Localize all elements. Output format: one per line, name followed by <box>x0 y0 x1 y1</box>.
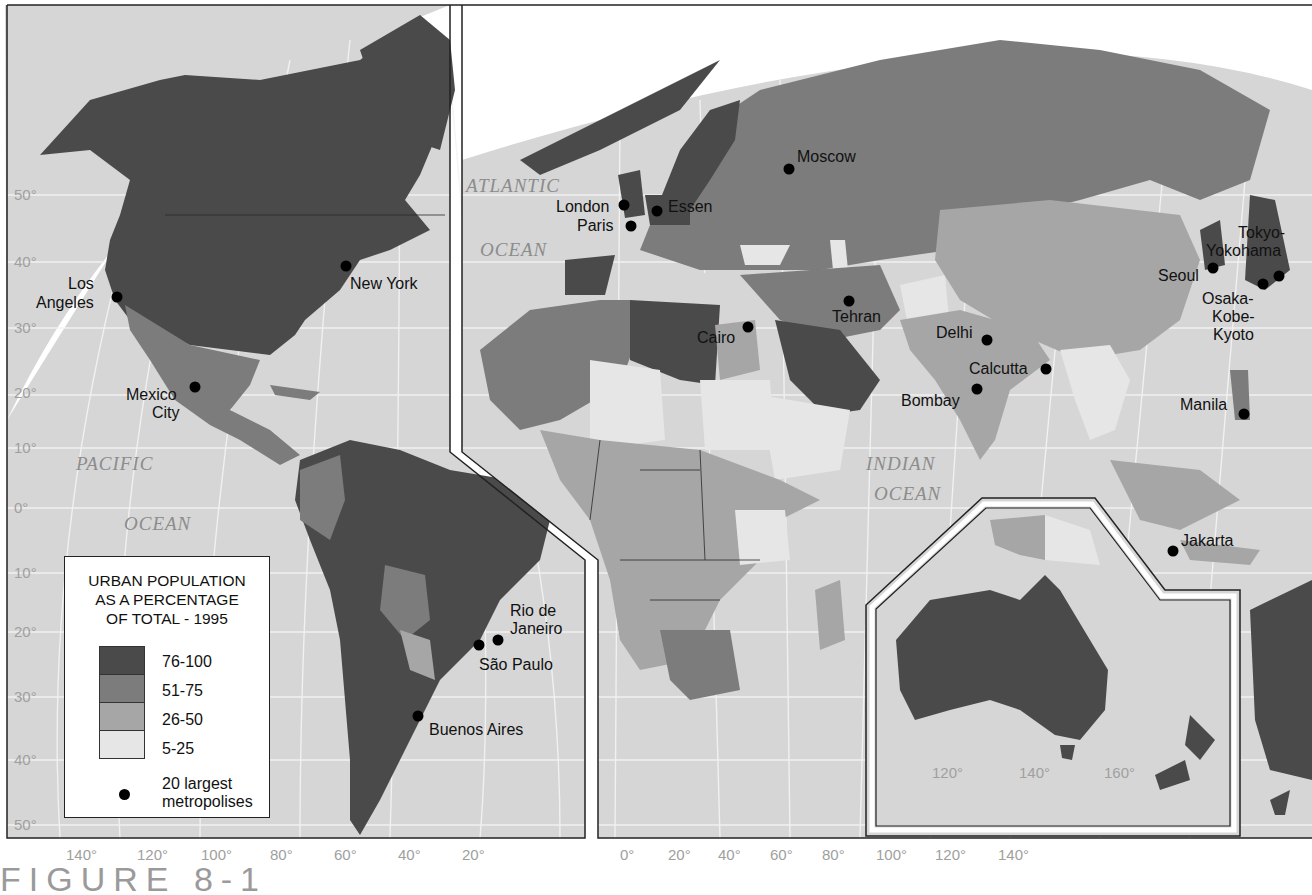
svg-text:Buenos Aires: Buenos Aires <box>429 721 523 738</box>
svg-text:50°: 50° <box>14 186 37 203</box>
legend-label-metropolises: 20 largest metropolises <box>162 775 253 811</box>
svg-text:Tokyo-: Tokyo- <box>1238 224 1285 241</box>
svg-text:Manila: Manila <box>1180 396 1227 413</box>
svg-text:Osaka-: Osaka- <box>1202 290 1254 307</box>
svg-text:40°: 40° <box>398 846 421 863</box>
svg-text:Calcutta: Calcutta <box>969 360 1028 377</box>
svg-text:New York: New York <box>350 275 419 292</box>
svg-text:Seoul: Seoul <box>1158 267 1199 284</box>
legend-swatches <box>99 647 145 759</box>
svg-text:OCEAN: OCEAN <box>480 239 548 260</box>
svg-text:Janeiro: Janeiro <box>510 620 563 637</box>
legend-label-76-100: 76-100 <box>162 653 212 671</box>
swatch-51-75 <box>99 674 145 703</box>
map-legend: URBAN POPULATION AS A PERCENTAGE OF TOTA… <box>64 556 270 818</box>
svg-text:Bombay: Bombay <box>901 392 960 409</box>
svg-text:120°: 120° <box>935 846 966 863</box>
svg-text:OCEAN: OCEAN <box>874 483 942 504</box>
svg-text:60°: 60° <box>770 846 793 863</box>
svg-text:Mexico: Mexico <box>126 386 177 403</box>
svg-text:0°: 0° <box>620 846 634 863</box>
svg-text:Kyoto: Kyoto <box>1213 326 1254 343</box>
svg-text:Yokohama: Yokohama <box>1206 242 1281 259</box>
svg-text:80°: 80° <box>822 846 845 863</box>
svg-text:20°: 20° <box>462 846 485 863</box>
svg-text:Tehran: Tehran <box>832 308 881 325</box>
svg-text:50°: 50° <box>14 816 37 833</box>
svg-text:20°: 20° <box>14 623 37 640</box>
svg-text:Jakarta: Jakarta <box>1181 532 1234 549</box>
legend-title: URBAN POPULATION AS A PERCENTAGE OF TOTA… <box>65 571 269 628</box>
svg-text:Los: Los <box>68 275 94 292</box>
svg-text:10°: 10° <box>14 564 37 581</box>
svg-text:140°: 140° <box>1019 764 1050 781</box>
swatch-26-50 <box>99 702 145 731</box>
svg-text:Rio de: Rio de <box>510 602 556 619</box>
svg-text:20°: 20° <box>668 846 691 863</box>
svg-text:Angeles: Angeles <box>36 294 94 311</box>
svg-text:Cairo: Cairo <box>697 329 735 346</box>
svg-text:80°: 80° <box>270 846 293 863</box>
svg-text:Moscow: Moscow <box>797 148 856 165</box>
svg-text:0°: 0° <box>14 499 28 516</box>
svg-text:40°: 40° <box>718 846 741 863</box>
svg-text:10°: 10° <box>14 439 37 456</box>
svg-text:30°: 30° <box>14 688 37 705</box>
pacific-ocean-label: PACIFIC <box>75 453 153 474</box>
swatch-76-100 <box>99 646 145 675</box>
legend-label-26-50: 26-50 <box>162 711 203 729</box>
svg-text:City: City <box>152 404 180 421</box>
legend-label-51-75: 51-75 <box>162 682 203 700</box>
svg-text:Paris: Paris <box>577 217 613 234</box>
svg-text:100°: 100° <box>876 846 907 863</box>
eastern-hemisphere-panel <box>462 5 1312 838</box>
atlantic-ocean-label: ATLANTIC <box>464 175 560 196</box>
svg-text:London: London <box>556 198 609 215</box>
svg-text:Kobe-: Kobe- <box>1212 308 1255 325</box>
legend-label-5-25: 5-25 <box>162 740 194 758</box>
svg-text:140°: 140° <box>998 846 1029 863</box>
svg-text:60°: 60° <box>334 846 357 863</box>
swatch-5-25 <box>99 730 145 759</box>
figure-caption: FIGURE 8-1 <box>0 860 267 895</box>
svg-text:40°: 40° <box>14 253 37 270</box>
svg-text:20°: 20° <box>14 384 37 401</box>
svg-text:Delhi: Delhi <box>936 324 972 341</box>
svg-text:Essen: Essen <box>668 198 712 215</box>
indian-ocean-label: INDIAN <box>865 453 936 474</box>
svg-text:120°: 120° <box>932 764 963 781</box>
svg-text:30°: 30° <box>14 319 37 336</box>
svg-text:160°: 160° <box>1104 764 1135 781</box>
metropolis-dot-icon <box>119 789 130 800</box>
svg-text:OCEAN: OCEAN <box>124 513 192 534</box>
svg-text:40°: 40° <box>14 751 37 768</box>
svg-text:São Paulo: São Paulo <box>479 656 553 673</box>
